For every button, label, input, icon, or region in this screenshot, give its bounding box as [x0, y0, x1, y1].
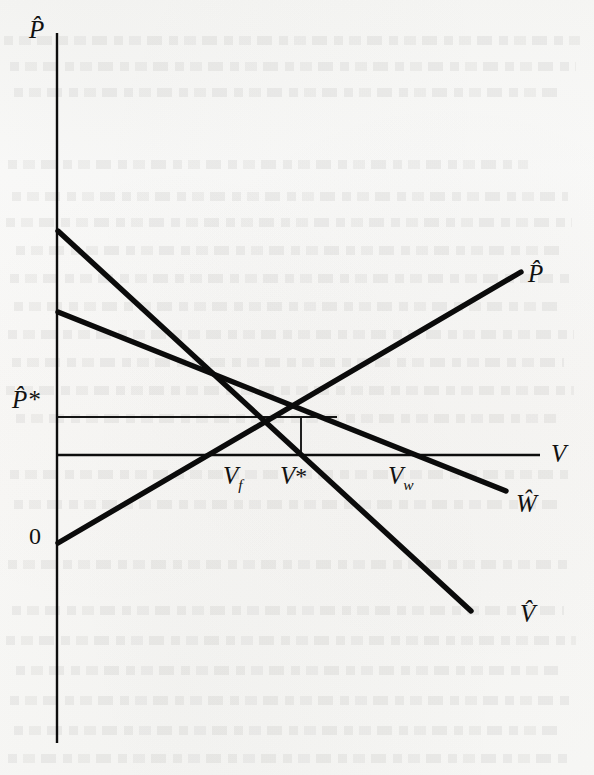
vertical-axis-label: P̂ [29, 17, 44, 42]
x-mark-vstar: V* [280, 463, 307, 489]
origin-label: 0 [29, 524, 41, 548]
horizontal-axis-label: V [551, 441, 566, 466]
scanned-page: P̂ P̂* 0 V P̂ Ŵ V̂ Vf V* Vw [0, 0, 594, 775]
equilibrium-price-label: P̂* [12, 387, 40, 412]
figure-canvas [0, 0, 594, 775]
x-mark-vw: Vw [388, 463, 414, 493]
p-hat-schedule [58, 272, 521, 543]
x-mark-vf: Vf [223, 463, 243, 493]
w-hat-curve-label: Ŵ [516, 491, 537, 516]
p-hat-curve-label: P̂ [528, 261, 543, 286]
v-hat-curve-label: V̂ [520, 601, 535, 626]
